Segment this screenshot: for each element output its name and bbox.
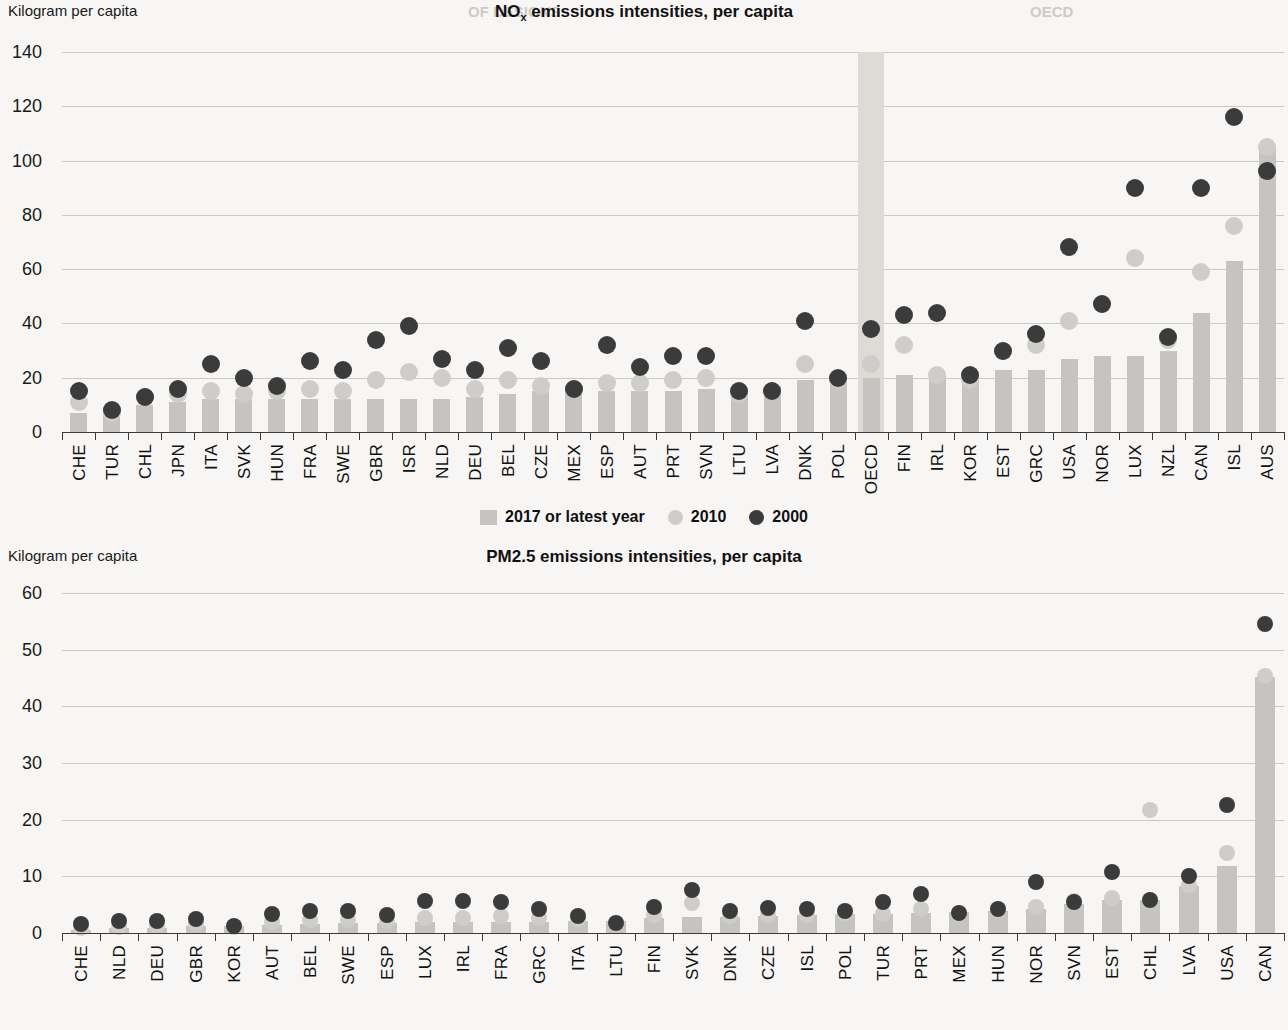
bar xyxy=(400,399,417,432)
data-point-2000 xyxy=(1257,616,1273,632)
x-axis-category-label: USA xyxy=(1218,945,1238,981)
data-point-2000 xyxy=(951,905,967,921)
x-axis-tick xyxy=(590,432,591,440)
data-point-2010 xyxy=(1257,668,1273,684)
x-axis-category-label: SVN xyxy=(697,444,717,480)
nox-title-rest: emissions intensities, per capita xyxy=(527,2,793,21)
x-axis-tick xyxy=(95,432,96,440)
y-axis-tick-label: 60 xyxy=(0,259,56,280)
data-point-2000 xyxy=(684,882,700,898)
y-axis-tick-label: 50 xyxy=(0,639,56,660)
x-axis-tick xyxy=(1055,933,1056,941)
data-point-2000 xyxy=(70,382,88,400)
data-point-2000 xyxy=(598,336,616,354)
x-axis-tick xyxy=(1246,933,1247,941)
bar xyxy=(1094,356,1111,432)
data-point-2010 xyxy=(796,355,814,373)
data-point-2000 xyxy=(760,900,776,916)
data-point-2000 xyxy=(499,339,517,357)
x-axis-category-label: DEU xyxy=(466,444,486,481)
bar xyxy=(598,391,615,432)
data-point-2000 xyxy=(722,903,738,919)
data-point-2000 xyxy=(862,320,880,338)
x-axis-tick xyxy=(482,933,483,941)
highlight-band-oecd xyxy=(858,52,884,432)
x-axis-category-label: LUX xyxy=(1126,444,1146,478)
x-axis-category-label: POL xyxy=(836,945,856,980)
bar xyxy=(1226,261,1243,432)
data-point-2000 xyxy=(961,366,979,384)
x-axis-tick xyxy=(597,933,598,941)
x-axis-tick xyxy=(635,933,636,941)
x-axis-category-label: TUR xyxy=(103,444,123,480)
bar xyxy=(1217,866,1237,933)
nox-legend: 2017 or latest year 2010 2000 xyxy=(0,508,1288,526)
x-axis-category-label: ISL xyxy=(1225,444,1245,470)
data-point-2000 xyxy=(799,901,815,917)
bar xyxy=(1061,359,1078,432)
pm25-plot-area: 0102030405060CHENLDDEUGBRKORAUTBELSWEESP… xyxy=(62,593,1284,933)
x-axis-tick xyxy=(826,933,827,941)
data-point-2010 xyxy=(1258,138,1276,156)
data-point-2000 xyxy=(1104,864,1120,880)
x-axis-category-label: AUT xyxy=(263,945,283,980)
data-point-2000 xyxy=(913,886,929,902)
x-axis-tick xyxy=(1053,432,1054,440)
bar xyxy=(1028,370,1045,432)
x-axis-tick xyxy=(1185,432,1186,440)
x-axis-category-label: AUT xyxy=(631,444,651,479)
data-point-2010 xyxy=(455,910,471,926)
data-point-2000 xyxy=(466,361,484,379)
data-point-2000 xyxy=(646,899,662,915)
data-point-2000 xyxy=(103,401,121,419)
data-point-2000 xyxy=(1142,892,1158,908)
bar xyxy=(1179,886,1199,933)
data-point-2000 xyxy=(188,911,204,927)
pm25-chart-panel: Kilogram per capita PM2.5 emissions inte… xyxy=(0,545,1288,1030)
data-point-2000 xyxy=(226,918,242,934)
data-point-2000 xyxy=(990,901,1006,917)
data-point-2010 xyxy=(928,366,946,384)
x-axis-category-label: NOR xyxy=(1093,444,1113,483)
data-point-2000 xyxy=(268,377,286,395)
x-axis-tick xyxy=(723,432,724,440)
x-axis-tick xyxy=(100,933,101,941)
legend-item-bar: 2017 or latest year xyxy=(480,508,659,526)
data-point-2000 xyxy=(532,352,550,370)
data-point-2000 xyxy=(301,352,319,370)
data-point-2000 xyxy=(1028,874,1044,890)
x-axis-tick xyxy=(425,432,426,440)
x-axis-category-label: NZL xyxy=(1159,444,1179,477)
data-point-2000 xyxy=(1219,797,1235,813)
x-axis-category-label: SWE xyxy=(334,444,354,484)
x-axis-category-label: CHL xyxy=(136,444,156,479)
x-axis-tick xyxy=(756,432,757,440)
y-axis-tick-label: 30 xyxy=(0,753,56,774)
data-point-2000 xyxy=(697,347,715,365)
data-point-2000 xyxy=(1126,179,1144,197)
x-axis-tick xyxy=(864,933,865,941)
x-axis-category-label: MEX xyxy=(950,945,970,983)
bar xyxy=(70,413,87,432)
data-point-2000 xyxy=(367,331,385,349)
data-point-2010 xyxy=(417,910,433,926)
y-axis-tick-label: 40 xyxy=(0,313,56,334)
x-axis-tick xyxy=(177,933,178,941)
y-axis-tick-label: 10 xyxy=(0,866,56,887)
data-point-2000 xyxy=(608,915,624,931)
data-point-2000 xyxy=(169,380,187,398)
data-point-2010 xyxy=(1142,802,1158,818)
data-point-2010 xyxy=(499,371,517,389)
y-axis-tick-label: 120 xyxy=(0,96,56,117)
legend-2010-label: 2010 xyxy=(691,508,727,526)
data-point-2000 xyxy=(202,355,220,373)
x-axis-category-label: ESP xyxy=(378,945,398,980)
x-axis-category-label: GRC xyxy=(1027,444,1047,483)
data-point-2010 xyxy=(433,369,451,387)
x-axis-tick xyxy=(392,432,393,440)
x-axis-category-label: AUS xyxy=(1258,444,1278,480)
x-axis-category-label: LVA xyxy=(1180,945,1200,976)
x-axis-tick xyxy=(293,432,294,440)
x-axis-tick xyxy=(329,933,330,941)
data-point-2000 xyxy=(1159,328,1177,346)
